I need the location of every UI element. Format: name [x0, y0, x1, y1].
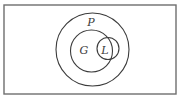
set-g-label: G [80, 44, 89, 57]
venn-diagram: P G L [0, 0, 180, 99]
set-p-label: P [86, 16, 95, 29]
set-l-label: L [100, 44, 108, 57]
